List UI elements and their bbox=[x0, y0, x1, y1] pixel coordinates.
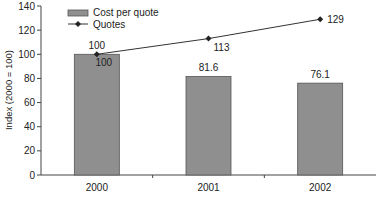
y-tick-label: 0 bbox=[29, 170, 35, 181]
y-tick-label: 120 bbox=[18, 25, 35, 36]
bar-swatch-icon bbox=[68, 10, 88, 16]
bar-value-label: 76.1 bbox=[310, 69, 330, 80]
bar bbox=[298, 83, 343, 175]
diamond-marker-icon bbox=[317, 16, 323, 22]
bar bbox=[186, 76, 231, 175]
line-series-quotes: 100113129 bbox=[88, 14, 344, 57]
line-value-label: 129 bbox=[327, 14, 344, 25]
x-tick-label: 2001 bbox=[197, 182, 220, 193]
bar-value-label: 81.6 bbox=[199, 62, 219, 73]
x-axis: 200020012002 bbox=[41, 175, 376, 193]
legend: Cost per quote Quotes bbox=[68, 7, 159, 30]
line-value-label: 100 bbox=[88, 40, 105, 51]
y-tick-label: 60 bbox=[24, 97, 36, 108]
diamond-marker-icon bbox=[75, 21, 81, 27]
y-axis-title: Index (2000 = 100) bbox=[3, 50, 14, 130]
diamond-marker-icon bbox=[206, 36, 212, 42]
y-tick-label: 40 bbox=[24, 121, 36, 132]
y-tick-label: 80 bbox=[24, 73, 36, 84]
x-tick-label: 2002 bbox=[309, 182, 332, 193]
line-value-label: 113 bbox=[214, 42, 230, 53]
chart: 020406080100120140 200020012002 10081.67… bbox=[0, 0, 378, 199]
x-tick-label: 2000 bbox=[86, 182, 109, 193]
bar-series-cost-per-quote: 10081.676.1 bbox=[74, 54, 342, 175]
y-tick-label: 20 bbox=[24, 145, 36, 156]
y-axis: 020406080100120140 bbox=[18, 1, 41, 181]
y-tick-label: 100 bbox=[18, 49, 35, 60]
y-tick-label: 140 bbox=[18, 1, 35, 12]
legend-label-cost-per-quote: Cost per quote bbox=[93, 7, 159, 18]
bar-value-label: 100 bbox=[95, 57, 112, 68]
legend-label-quotes: Quotes bbox=[93, 19, 125, 30]
bar bbox=[74, 54, 119, 175]
